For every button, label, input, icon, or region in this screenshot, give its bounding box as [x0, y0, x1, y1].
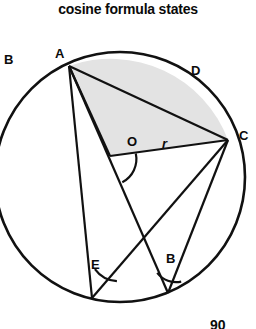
- label-e: E: [91, 258, 100, 271]
- diagram-canvas: cosine formula states B A D C O r E B 90: [0, 0, 256, 329]
- circle-geometry-figure: [0, 0, 256, 329]
- shaded-region: [69, 59, 228, 156]
- label-b-outside: B: [4, 53, 13, 66]
- chord-bc: [168, 140, 228, 293]
- label-r: r: [162, 137, 167, 150]
- cut-off-text: 90: [210, 318, 226, 329]
- angle-at-o: [122, 154, 136, 183]
- label-c: C: [239, 129, 248, 142]
- label-o: O: [127, 135, 137, 148]
- label-a: A: [55, 47, 64, 60]
- label-d: D: [191, 64, 200, 77]
- label-b-inner: B: [166, 252, 175, 265]
